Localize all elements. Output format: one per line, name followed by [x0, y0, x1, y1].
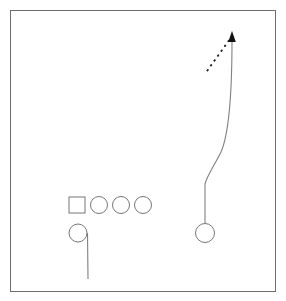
arrowheads-layer [228, 31, 236, 42]
players-layer [69, 197, 215, 243]
route-backfield-stem [88, 233, 89, 279]
player-lineman-square[interactable] [69, 197, 85, 213]
arrowhead-icon-deep-route [228, 31, 236, 42]
player-lineman-circle-2[interactable] [113, 197, 130, 214]
routes-layer [88, 40, 233, 279]
motion-paths-layer [207, 39, 230, 71]
player-lineman-circle-3[interactable] [135, 197, 152, 214]
player-backfield-circle[interactable] [69, 224, 87, 242]
player-lineman-circle-1[interactable] [91, 197, 108, 214]
player-right-receiver-circle[interactable] [196, 224, 215, 243]
play-diagram-root [0, 0, 286, 301]
route-right-receiver-stem [205, 40, 232, 224]
play-diagram-canvas [0, 0, 286, 301]
motion-deep-route-dashed [207, 39, 230, 71]
